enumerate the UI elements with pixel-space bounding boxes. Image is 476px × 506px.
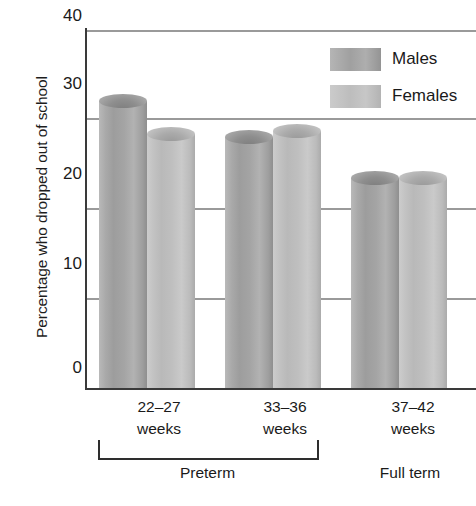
y-tick-labels: 40 30 20 10 0 bbox=[30, 0, 82, 400]
y-tick-30: 30 bbox=[38, 74, 82, 94]
legend: Males Females bbox=[330, 44, 476, 118]
x-label-group-3: 37–42 weeks bbox=[351, 396, 475, 440]
x-label-group-1-line2: weeks bbox=[97, 418, 221, 440]
bar-cap-ellipse bbox=[147, 127, 195, 141]
y-tick-20: 20 bbox=[38, 164, 82, 184]
x-axis-line bbox=[85, 388, 476, 390]
male-swatch-icon bbox=[330, 48, 381, 71]
x-label-group-3-line1: 37–42 bbox=[351, 396, 475, 418]
x-label-group-1-line1: 22–27 bbox=[97, 396, 221, 418]
bar-body bbox=[225, 137, 273, 388]
bar-3-females bbox=[399, 171, 447, 388]
legend-item-females: Females bbox=[330, 81, 476, 111]
bar-cap-ellipse bbox=[399, 171, 447, 185]
group-label-preterm: Preterm bbox=[98, 464, 317, 482]
female-swatch-icon bbox=[330, 85, 381, 108]
x-label-group-1: 22–27 weeks bbox=[97, 396, 221, 440]
bar-chart: Percentage who dropped out of school 40 … bbox=[0, 0, 476, 506]
group-label-full-term: Full term bbox=[350, 464, 470, 482]
legend-item-males: Males bbox=[330, 44, 476, 74]
bar-2-males bbox=[225, 130, 273, 388]
legend-label-males: Males bbox=[392, 49, 437, 69]
bar-body bbox=[351, 178, 399, 388]
x-label-group-3-line2: weeks bbox=[351, 418, 475, 440]
bar-3-males bbox=[351, 171, 399, 388]
bar-1-females bbox=[147, 127, 195, 388]
y-tick-40: 40 bbox=[38, 6, 82, 26]
bar-body bbox=[273, 131, 321, 388]
y-tick-0: 0 bbox=[38, 358, 82, 378]
bar-1-males bbox=[99, 94, 147, 388]
bar-cap-ellipse bbox=[273, 124, 321, 138]
preterm-bracket bbox=[98, 440, 319, 460]
x-label-group-2-line2: weeks bbox=[223, 418, 347, 440]
legend-label-females: Females bbox=[392, 86, 457, 106]
x-label-group-2-line1: 33–36 bbox=[223, 396, 347, 418]
bar-cap-ellipse bbox=[351, 171, 399, 185]
bar-2-females bbox=[273, 124, 321, 388]
x-label-group-2: 33–36 weeks bbox=[223, 396, 347, 440]
bar-body bbox=[99, 101, 147, 388]
bar-body bbox=[399, 178, 447, 388]
y-tick-10: 10 bbox=[38, 254, 82, 274]
bar-body bbox=[147, 134, 195, 388]
